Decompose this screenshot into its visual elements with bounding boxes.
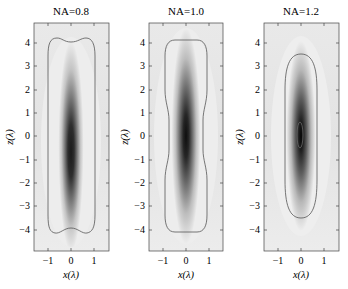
svg-text:0: 0 [184, 255, 189, 266]
y-tick-labels: 4 3 2 1 0 −1 −2 −3 −4 [249, 37, 260, 235]
svg-text:−4: −4 [249, 224, 260, 235]
svg-text:1: 1 [25, 107, 30, 118]
x-tick-labels: −1 0 1 [43, 255, 97, 266]
svg-text:−2: −2 [134, 177, 145, 188]
svg-text:1: 1 [322, 255, 327, 266]
panel-na-1.0: NA=1.0 4 3 2 1 0 −1 −2 −3 −4 z(λ) [119, 5, 223, 281]
svg-text:−1: −1 [43, 255, 54, 266]
svg-text:4: 4 [255, 37, 260, 48]
svg-text:−4: −4 [19, 224, 30, 235]
svg-text:−1: −1 [273, 255, 284, 266]
svg-text:−2: −2 [19, 177, 30, 188]
intensity-map [154, 28, 218, 244]
svg-text:2: 2 [255, 84, 260, 95]
svg-text:−1: −1 [158, 255, 169, 266]
svg-text:−3: −3 [249, 200, 260, 211]
svg-text:−1: −1 [134, 154, 145, 165]
svg-text:−1: −1 [249, 154, 260, 165]
svg-text:−2: −2 [249, 177, 260, 188]
svg-text:−1: −1 [19, 154, 30, 165]
x-axis-label: x(λ) [177, 269, 195, 281]
svg-text:1: 1 [207, 255, 212, 266]
svg-text:0: 0 [69, 255, 74, 266]
y-axis-label: z(λ) [119, 129, 131, 146]
svg-text:0: 0 [140, 130, 145, 141]
x-axis-label: x(λ) [62, 269, 80, 281]
panel-title: NA=0.8 [53, 5, 89, 17]
x-axis-label: x(λ) [292, 269, 310, 281]
x-tick-labels: −1 0 1 [273, 255, 327, 266]
y-tick-labels: 4 3 2 1 0 −1 −2 −3 −4 [134, 37, 145, 235]
svg-text:0: 0 [299, 255, 304, 266]
svg-text:−3: −3 [134, 200, 145, 211]
svg-text:1: 1 [255, 107, 260, 118]
svg-text:3: 3 [25, 60, 30, 71]
panel-na-1.2: NA=1.2 4 3 2 1 0 −1 −2 −3 −4 z(λ) [234, 5, 339, 281]
svg-text:−3: −3 [19, 200, 30, 211]
svg-text:3: 3 [140, 60, 145, 71]
svg-text:4: 4 [140, 37, 145, 48]
y-tick-labels: 4 3 2 1 0 −1 −2 −3 −4 [19, 37, 30, 235]
y-axis-label: z(λ) [234, 129, 246, 146]
panel-na-0.8: NA=0.8 4 3 2 1 0 −1 −2 −3 −4 z(λ) [4, 5, 109, 281]
svg-text:−4: −4 [134, 224, 145, 235]
x-tick-labels: −1 0 1 [158, 255, 212, 266]
intensity-map [271, 36, 331, 236]
svg-text:3: 3 [255, 60, 260, 71]
figure: NA=0.8 4 3 2 1 0 −1 −2 −3 −4 z(λ) [0, 0, 348, 289]
svg-text:2: 2 [25, 84, 30, 95]
svg-text:4: 4 [25, 37, 30, 48]
intensity-map [41, 37, 101, 247]
svg-text:1: 1 [92, 255, 97, 266]
svg-text:0: 0 [255, 130, 260, 141]
panel-title: NA=1.2 [283, 5, 319, 17]
y-axis-label: z(λ) [4, 129, 16, 146]
panel-title: NA=1.0 [168, 5, 204, 17]
svg-text:2: 2 [140, 84, 145, 95]
svg-text:1: 1 [140, 107, 145, 118]
svg-text:0: 0 [25, 130, 30, 141]
